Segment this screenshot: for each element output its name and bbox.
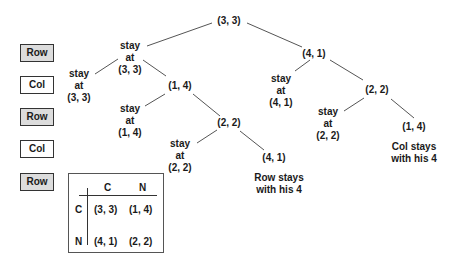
row-header: N	[75, 236, 82, 248]
node-text: stay	[118, 40, 141, 52]
node-2-2: (2, 2)	[217, 117, 240, 129]
stay-node: stay at (4, 1)	[269, 73, 292, 109]
node-text: (2, 2)	[168, 162, 191, 174]
node-text: (3, 3)	[67, 92, 90, 104]
node-text: (3, 3)	[118, 64, 141, 76]
note-text: with his 4	[254, 184, 303, 196]
note-text: Col stays	[391, 141, 437, 153]
note-text: Row stays	[254, 172, 303, 184]
node-4-1: (4, 1)	[302, 48, 325, 60]
col-header: N	[139, 182, 146, 194]
matrix-cell: (4, 1)	[94, 236, 117, 248]
leaf-1-4: (1, 4)	[402, 121, 425, 133]
payoff-matrix: C N C N (3, 3) (1, 4) (4, 1) (2, 2)	[68, 173, 164, 253]
node-text: at	[269, 85, 292, 97]
stay-node: stay at (3, 3)	[118, 40, 141, 76]
player-row-label: Row	[20, 173, 54, 191]
leaf-4-1: (4, 1)	[262, 152, 285, 164]
node-text: at	[118, 52, 141, 64]
node-text: (2, 2)	[316, 130, 339, 142]
note-text: with his 4	[391, 153, 437, 165]
player-col-label: Col	[20, 76, 54, 94]
row-header: C	[75, 204, 82, 216]
stay-node: stay at (3, 3)	[67, 68, 90, 104]
node-text: stay	[67, 68, 90, 80]
stay-node: stay at (1, 4)	[118, 103, 141, 139]
node-text: (1, 4)	[118, 127, 141, 139]
node-text: at	[168, 150, 191, 162]
node-2-2: (2, 2)	[365, 84, 388, 96]
matrix-cell: (2, 2)	[129, 236, 152, 248]
matrix-cell: (1, 4)	[129, 204, 152, 216]
matrix-vertical-rule	[87, 188, 88, 245]
row-stays-note: Row stays with his 4	[254, 172, 303, 196]
node-text: stay	[316, 106, 339, 118]
col-stays-note: Col stays with his 4	[391, 141, 437, 165]
matrix-cell: (3, 3)	[94, 204, 117, 216]
node-text: at	[67, 80, 90, 92]
node-text: stay	[269, 73, 292, 85]
col-header: C	[104, 182, 111, 194]
node-text: at	[118, 115, 141, 127]
node-1-4: (1, 4)	[168, 80, 191, 92]
player-col-label: Col	[20, 140, 54, 158]
player-row-label: Row	[20, 44, 54, 62]
stay-node: stay at (2, 2)	[316, 106, 339, 142]
stay-node: stay at (2, 2)	[168, 138, 191, 174]
player-row-label: Row	[20, 108, 54, 126]
node-text: at	[316, 118, 339, 130]
node-text: stay	[118, 103, 141, 115]
node-text: (4, 1)	[269, 97, 292, 109]
root-node: (3, 3)	[217, 15, 240, 27]
matrix-horizontal-rule	[79, 195, 157, 196]
node-text: stay	[168, 138, 191, 150]
